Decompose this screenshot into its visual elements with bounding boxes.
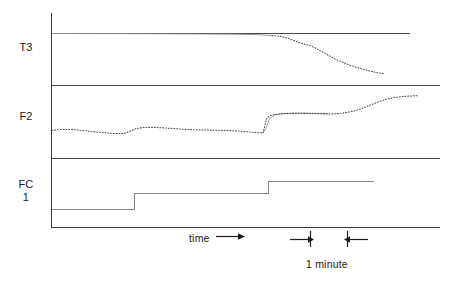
- channel-label-t3: T3: [10, 41, 42, 54]
- time-axis-label: time: [189, 232, 210, 244]
- channel-label-f2: F2: [10, 110, 42, 123]
- scale-bar-label: 1 minute: [306, 258, 348, 270]
- channel-label-fc1: FC 1: [10, 178, 42, 203]
- trace-fc1-step: [52, 182, 374, 210]
- trace-f2-dotted-high: [263, 96, 418, 133]
- trace-t3-dotted-segment: [272, 36, 384, 74]
- trace-f2-solid-segment: [263, 113, 328, 133]
- trace-f2-dotted-low: [52, 127, 263, 133]
- time-arrow-head-icon: [238, 233, 245, 240]
- recording-figure: T3 F2 FC 1 time 1 minute: [0, 0, 460, 282]
- chart-canvas: [0, 0, 460, 282]
